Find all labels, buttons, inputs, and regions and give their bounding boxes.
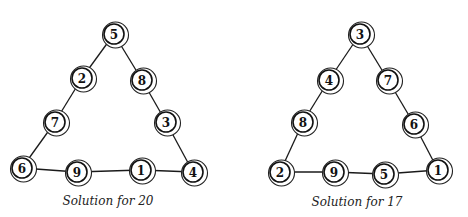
node-number: 7 [384,74,392,88]
node-number: 1 [137,164,145,178]
node-number: 4 [325,74,333,88]
node-number: 4 [189,166,197,180]
number-node: 8 [292,110,318,136]
node-number: 5 [110,28,118,42]
caption-solution-20: Solution for 20 [63,194,154,208]
number-node: 6 [11,156,37,182]
number-node: 5 [373,162,399,188]
node-number: 9 [330,166,338,180]
number-node: 9 [66,160,92,186]
node-number: 5 [380,168,388,182]
number-node: 1 [130,158,156,184]
node-number: 7 [51,116,59,130]
number-node: 4 [182,160,208,186]
node-number: 6 [18,162,26,176]
node-number: 1 [434,164,442,178]
number-node: 4 [318,68,344,94]
number-node: 5 [103,22,129,48]
caption-solution-17: Solution for 17 [312,195,403,209]
triangle-puzzle-canvas: 528736914347862951 [0,0,468,217]
number-node: 2 [269,160,295,186]
node-number: 8 [138,74,146,88]
number-node: 7 [377,68,403,94]
node-number: 3 [162,116,170,130]
node-number: 3 [356,28,364,42]
nodes-layer: 528736914347862951 [11,22,453,188]
number-node: 3 [155,110,181,136]
number-node: 8 [131,68,157,94]
node-number: 6 [410,118,418,132]
number-node: 3 [349,22,375,48]
edges-layer [22,34,438,174]
node-number: 2 [276,166,284,180]
number-node: 2 [71,66,97,92]
number-node: 1 [427,158,453,184]
number-node: 7 [44,110,70,136]
node-number: 9 [73,166,81,180]
number-node: 9 [323,160,349,186]
node-number: 8 [299,116,307,130]
node-number: 2 [78,72,86,86]
number-node: 6 [403,112,429,138]
